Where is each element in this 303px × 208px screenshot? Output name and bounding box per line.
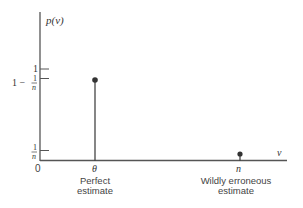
origin-label: 0	[35, 163, 41, 174]
point-n	[237, 151, 242, 156]
y-tick-1n-den: n	[32, 152, 36, 161]
x-tick-theta: θ	[92, 163, 97, 174]
y-tick-label-den: n	[32, 83, 36, 92]
y-tick-label-prefix: 1 −	[12, 77, 26, 88]
annotation-perfect-2: estimate	[77, 185, 113, 196]
x-tick-n: n	[236, 163, 241, 174]
y-tick-label-num: 1	[33, 74, 37, 83]
y-tick-label-1: 1	[33, 63, 38, 74]
x-axis-label: v	[277, 147, 282, 158]
annotation-wild-2: estimate	[218, 185, 254, 196]
point-theta	[92, 77, 98, 83]
pmf-diagram: p(v) 1 1 − 1 n 1 n 0 θ Perfect estimate …	[0, 0, 303, 208]
y-axis-label: p(v)	[45, 14, 64, 27]
